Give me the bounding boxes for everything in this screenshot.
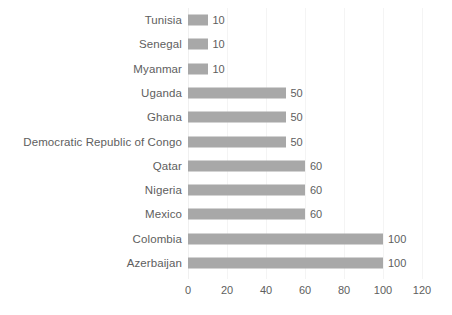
x-tick-label: 120 [413,283,431,297]
bar-rows: Tunisia10Senegal10Myanmar10Uganda50Ghana… [0,0,452,279]
category-label: Colombia [0,232,182,246]
bar-row: Qatar60 [0,154,452,178]
bar-row: Senegal10 [0,32,452,56]
category-label: Azerbaijan [0,256,182,270]
bar [188,15,208,26]
bar-row: Tunisia10 [0,8,452,32]
bar-value-label: 100 [388,232,406,246]
bar-value-label: 50 [291,110,303,124]
bar-row: Nigeria60 [0,178,452,202]
bar [188,233,383,244]
x-tick-label: 80 [338,283,350,297]
category-label: Mexico [0,207,182,221]
x-tick-label: 20 [221,283,233,297]
x-tick-label: 60 [299,283,311,297]
bar-value-label: 60 [310,159,322,173]
category-label: Senegal [0,37,182,51]
bar-value-label: 60 [310,207,322,221]
category-label: Myanmar [0,62,182,76]
bar-row: Colombia100 [0,227,452,251]
bar [188,87,286,98]
bar [188,258,383,269]
x-tick-label: 0 [185,283,191,297]
bar-value-label: 10 [213,62,225,76]
bar-value-label: 50 [291,86,303,100]
category-label: Uganda [0,86,182,100]
category-label: Ghana [0,110,182,124]
bar-chart: Tunisia10Senegal10Myanmar10Uganda50Ghana… [0,0,452,315]
bar [188,160,305,171]
bar-value-label: 50 [291,135,303,149]
category-label: Nigeria [0,183,182,197]
category-label: Tunisia [0,13,182,27]
bar-row: Myanmar10 [0,57,452,81]
bar [188,63,208,74]
category-label: Qatar [0,159,182,173]
x-tick-label: 40 [260,283,272,297]
x-axis: 020406080100120 [0,283,452,303]
bar-value-label: 10 [213,13,225,27]
bar-row: Azerbaijan100 [0,251,452,275]
bar-row: Ghana50 [0,105,452,129]
bar [188,185,305,196]
bar-value-label: 10 [213,37,225,51]
bar [188,39,208,50]
bar [188,112,286,123]
bar-value-label: 60 [310,183,322,197]
category-label: Democratic Republic of Congo [0,135,182,149]
bar-row: Mexico60 [0,202,452,226]
bar-value-label: 100 [388,256,406,270]
bar [188,136,286,147]
bar-row: Democratic Republic of Congo50 [0,130,452,154]
bar [188,209,305,220]
bar-row: Uganda50 [0,81,452,105]
x-tick-label: 100 [374,283,392,297]
